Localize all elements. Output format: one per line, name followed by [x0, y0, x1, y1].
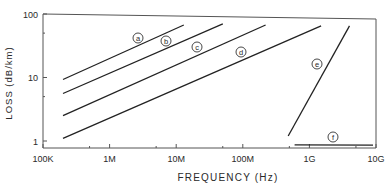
x-tick-label: 100K [32, 154, 53, 164]
series-label-f: f [328, 132, 338, 142]
label-letter: e [315, 60, 319, 69]
series-line-a [63, 25, 184, 80]
label-letter: c [195, 43, 199, 52]
y-axis-label: LOSS (dB/km) [3, 46, 14, 119]
series-line-d [63, 26, 321, 138]
y-tick-label: 10 [28, 73, 38, 83]
x-tick-label: 10M [167, 154, 185, 164]
x-axis-label: FREQUENCY (Hz) [177, 172, 278, 183]
series-lines [63, 24, 373, 145]
x-tick-label: 1M [103, 154, 116, 164]
series-label-e: e [312, 59, 322, 69]
label-letter: b [164, 37, 168, 46]
loss-vs-frequency-chart: 100K1M10M100M1G10G 110100 abcdef FREQUEN… [0, 0, 392, 188]
y-tick-label: 1 [33, 137, 38, 147]
x-tick-label: 10G [367, 154, 384, 164]
series-label-a: a [133, 33, 143, 43]
chart-canvas: 100K1M10M100M1G10G 110100 abcdef FREQUEN… [0, 0, 392, 188]
series-label-b: b [161, 36, 171, 46]
x-axis-ticks: 100K1M10M100M1G10G [32, 144, 384, 164]
x-tick-label: 1G [303, 154, 315, 164]
series-label-d: d [236, 47, 246, 57]
label-letter: d [239, 48, 243, 57]
series-line-b [63, 24, 223, 94]
series-label-c: c [192, 42, 202, 52]
y-tick-label: 100 [23, 10, 38, 20]
x-tick-label: 100M [232, 154, 255, 164]
series-line-e [288, 26, 349, 136]
